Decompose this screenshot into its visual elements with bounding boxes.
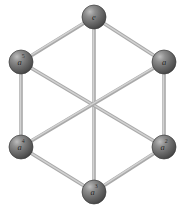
graph-canvas: eaa2a3a4a5 xyxy=(0,0,188,209)
edge-a3-a4 xyxy=(21,147,95,192)
edge-a4-a5 xyxy=(21,62,22,147)
node-a3[interactable]: a3 xyxy=(82,180,106,204)
node-label: a xyxy=(162,56,166,66)
node-label: e xyxy=(92,11,96,21)
node-a5[interactable]: a5 xyxy=(9,50,33,74)
edge-a-a2 xyxy=(164,62,165,147)
edge-layer xyxy=(21,17,165,192)
node-a4[interactable]: a4 xyxy=(9,135,33,159)
edge-a5-e xyxy=(21,17,95,62)
node-a2[interactable]: a2 xyxy=(152,135,176,159)
graph-figure: eaa2a3a4a5 xyxy=(0,0,188,209)
node-a[interactable]: a xyxy=(152,50,176,74)
node-e[interactable]: e xyxy=(82,5,106,29)
